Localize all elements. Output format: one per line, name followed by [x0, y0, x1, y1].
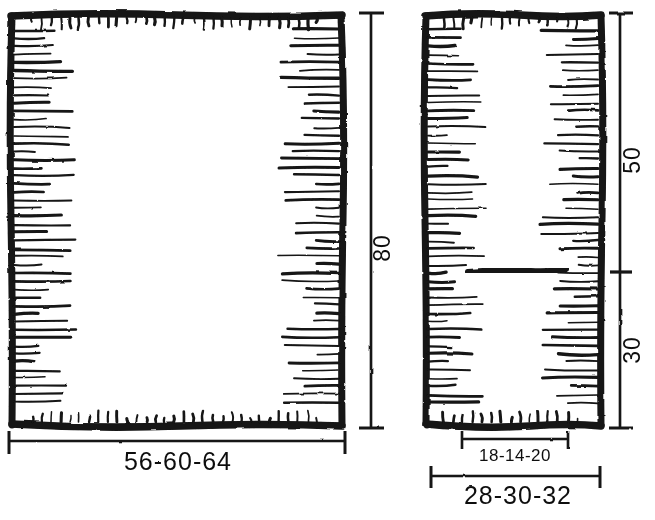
hatch-stroke [222, 18, 223, 26]
hatch-stroke [127, 18, 128, 23]
hatch-stroke [281, 62, 339, 63]
hatch-stroke [428, 55, 458, 56]
hatch-stroke [51, 412, 52, 422]
hatch-stroke [428, 353, 472, 354]
hatch-stroke [14, 290, 48, 291]
hatch-stroke [428, 242, 454, 243]
hatch-stroke [193, 414, 194, 422]
dimension-label-inner-depth: 18-14-20 [479, 446, 551, 465]
hatch-stroke [541, 233, 598, 234]
hatch-stroke [428, 192, 472, 193]
hatch-stroke [579, 265, 598, 266]
hatch-stroke [281, 77, 339, 78]
hatch-stroke [240, 18, 241, 25]
hatch-stroke [14, 54, 51, 55]
hatch-stroke [443, 412, 444, 422]
hatch-stroke [285, 191, 339, 192]
hatch-stroke [70, 18, 71, 28]
hatch-stroke [314, 320, 339, 321]
hatch-stroke [136, 415, 137, 422]
hatch-stroke [428, 395, 482, 396]
hatch-stroke [285, 345, 339, 346]
hatch-stroke [295, 38, 340, 39]
hatch-stroke [78, 18, 79, 30]
side-outline-left [424, 16, 426, 425]
hatch-stroke [428, 80, 471, 81]
hatch-stroke [568, 322, 598, 323]
hatch-stroke [61, 18, 62, 29]
hatch-stroke [14, 160, 74, 161]
hatch-stroke [42, 414, 43, 422]
hatch-stroke [307, 288, 339, 289]
hatch-stroke [282, 337, 339, 338]
dimension-label-lower-height: 30 [619, 336, 645, 364]
dimension-label-upper-height: 50 [619, 146, 645, 174]
hatch-stroke [314, 111, 339, 112]
hatch-stroke [428, 118, 467, 119]
hatch-stroke [14, 353, 40, 354]
hatch-stroke [428, 110, 474, 111]
hatch-stroke [481, 18, 482, 27]
hatch-stroke [573, 176, 598, 177]
hatch-stroke [308, 18, 309, 30]
hatch-stroke [557, 395, 598, 396]
hatch-stroke [88, 18, 89, 26]
hatch-stroke [543, 217, 598, 218]
hatch-stroke [14, 215, 61, 216]
hatch-stroke [428, 102, 481, 103]
hatch-stroke [14, 183, 49, 184]
hatch-stroke [202, 411, 203, 422]
hatch-stroke [428, 87, 457, 88]
hatch-stroke [575, 296, 598, 297]
hatch-stroke [563, 94, 598, 95]
hatch-stroke [428, 256, 484, 257]
hatch-stroke [473, 411, 474, 422]
hatch-stroke [260, 18, 261, 26]
hatch-stroke [14, 281, 70, 282]
hatch-stroke [511, 417, 512, 422]
hatch-stroke [146, 18, 147, 24]
dimension-label-overall-width: 56-60-64 [124, 447, 232, 475]
hatch-stroke [307, 248, 339, 249]
hatch-stroke [317, 354, 339, 355]
hatch-stroke [500, 411, 501, 422]
hatch-stroke [155, 18, 156, 25]
hatch-stroke [560, 281, 598, 282]
hatch-stroke [316, 418, 317, 422]
front-outline-right [341, 16, 344, 425]
side-interior-mark [468, 269, 566, 272]
hatch-stroke [316, 240, 339, 241]
hatch-stroke [241, 415, 242, 422]
hatch-stroke [428, 361, 448, 362]
hatch-stroke [573, 240, 598, 241]
hatch-stroke [568, 403, 598, 404]
hatch-stroke [155, 416, 156, 422]
hatch-stroke [317, 263, 339, 264]
hatch-stroke [568, 79, 598, 80]
hatch-stroke [502, 18, 503, 29]
hatch-stroke [14, 62, 61, 63]
hatch-stroke [428, 176, 478, 177]
side-outline-right [601, 16, 603, 425]
hatch-stroke [577, 192, 598, 193]
hatch-stroke [560, 248, 598, 249]
hatch-stroke [288, 413, 289, 422]
hatch-stroke [14, 346, 38, 347]
hatch-stroke [308, 54, 339, 55]
hatch-stroke [127, 419, 128, 422]
hatch-stroke [14, 265, 42, 266]
hatch-stroke [250, 18, 251, 29]
hatch-stroke [491, 413, 492, 422]
hatch-stroke [540, 223, 598, 224]
hatch-stroke [547, 411, 548, 422]
hatch-stroke [279, 18, 280, 28]
hatch-stroke [543, 345, 598, 346]
hatch-stroke [563, 70, 598, 71]
hatch-stroke [223, 416, 224, 422]
hatch-stroke [294, 174, 339, 175]
hatch-stroke [428, 135, 447, 136]
hatch-stroke [296, 223, 339, 224]
hatch-stroke [305, 385, 339, 386]
hatch-stroke [299, 18, 300, 28]
hatch-stroke [41, 18, 42, 30]
